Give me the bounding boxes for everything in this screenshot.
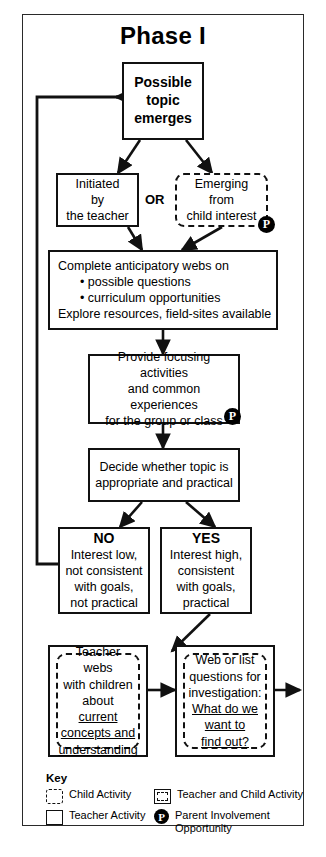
node-line: Explore resources, field-sites available bbox=[58, 306, 271, 322]
node-line: about bbox=[82, 693, 113, 709]
node-heading: YES bbox=[192, 530, 220, 548]
node-heading: NO bbox=[94, 530, 115, 548]
key-title: Key bbox=[46, 772, 304, 784]
node-line: child interest bbox=[186, 208, 256, 224]
node-line: from bbox=[209, 192, 234, 208]
node-line-underlined: current bbox=[79, 709, 118, 725]
node-line: practical bbox=[183, 595, 230, 611]
key-item-label: Teacher and Child Activity bbox=[177, 788, 303, 801]
key-item-parent-involvement: P Parent Involvement Opportunity bbox=[154, 809, 270, 835]
node-line: with children bbox=[63, 677, 132, 693]
key-legend: Key Child Activity Teacher and Child Act… bbox=[46, 772, 304, 840]
node-decide-whether-topic[interactable]: Decide whether topic is appropriate and … bbox=[88, 448, 240, 502]
node-provide-focusing-activities[interactable]: Provide focusing activities and common e… bbox=[88, 354, 240, 424]
node-line: by bbox=[91, 192, 104, 208]
key-row: Child Activity Teacher and Child Activit… bbox=[46, 788, 304, 804]
node-line: investigation: bbox=[189, 685, 262, 701]
node-web-or-list-questions[interactable]: Web or list questions for investigation:… bbox=[175, 645, 275, 757]
node-no-branch[interactable]: NO Interest low, not consistent with goa… bbox=[58, 527, 150, 614]
dashed-square-icon bbox=[46, 789, 63, 804]
node-line-underlined: concepts and bbox=[61, 725, 135, 741]
or-label: OR bbox=[145, 192, 165, 207]
node-line: not practical bbox=[70, 595, 137, 611]
solid-square-with-dashed-inner-icon bbox=[154, 789, 171, 804]
node-line: topic bbox=[146, 92, 179, 110]
parent-circle-p-icon: P bbox=[154, 809, 169, 824]
node-line: with goals, bbox=[74, 579, 133, 595]
node-line: Emerging bbox=[195, 176, 249, 192]
node-line: not consistent bbox=[65, 563, 142, 579]
node-line: Teacher webs bbox=[60, 644, 136, 677]
node-emerging-child-interest[interactable]: Emerging from child interest bbox=[175, 173, 268, 227]
key-item-label: Parent Involvement bbox=[175, 809, 270, 822]
node-line: • curriculum opportunities bbox=[58, 290, 221, 306]
node-line-underlined: want to bbox=[205, 717, 245, 733]
key-item-label: Teacher Activity bbox=[69, 809, 145, 822]
node-line: Possible bbox=[134, 74, 192, 92]
node-line-underlined: What do we bbox=[192, 701, 258, 717]
node-teacher-webs-with-children[interactable]: Teacher webs with children about current… bbox=[48, 645, 148, 757]
node-line: • possible questions bbox=[58, 274, 191, 290]
node-line: Web or list bbox=[196, 652, 255, 668]
node-line: Interest low, bbox=[71, 547, 138, 563]
node-yes-branch[interactable]: YES Interest high, consistent with goals… bbox=[160, 527, 252, 614]
node-line: questions for bbox=[189, 669, 261, 685]
key-item-teacher-and-child-activity: Teacher and Child Activity bbox=[154, 788, 303, 804]
node-line: Initiated bbox=[76, 176, 120, 192]
key-item-label: Opportunity bbox=[175, 822, 270, 835]
node-line: and common experiences bbox=[94, 381, 234, 413]
node-line: appropriate and practical bbox=[95, 475, 233, 491]
node-line: Decide whether topic is bbox=[99, 459, 228, 475]
key-row: Teacher Activity P Parent Involvement Op… bbox=[46, 809, 304, 835]
key-item-teacher-activity: Teacher Activity bbox=[46, 809, 154, 825]
node-line-underlined: understanding bbox=[58, 742, 137, 758]
node-initiated-by-teacher[interactable]: Initiated by the teacher bbox=[56, 173, 139, 227]
node-line-underlined: find out? bbox=[201, 734, 249, 750]
node-possible-topic[interactable]: Possible topic emerges bbox=[122, 62, 204, 140]
parent-involvement-badge[interactable]: P bbox=[258, 216, 275, 233]
node-line: Provide focusing activities bbox=[94, 349, 234, 381]
node-line: Interest high, bbox=[170, 547, 242, 563]
node-line: Complete anticipatory webs on bbox=[58, 258, 229, 274]
node-line: for the group or class bbox=[105, 413, 222, 429]
key-item-label-block: Parent Involvement Opportunity bbox=[175, 809, 270, 835]
node-line: emerges bbox=[134, 110, 192, 128]
key-item-label: Child Activity bbox=[69, 788, 131, 801]
parent-involvement-badge[interactable]: P bbox=[224, 408, 241, 425]
node-line: with goals, bbox=[176, 579, 235, 595]
key-item-child-activity: Child Activity bbox=[46, 788, 154, 804]
inner-child-activity-region: Web or list questions for investigation:… bbox=[183, 653, 267, 749]
node-line: consistent bbox=[178, 563, 234, 579]
solid-square-icon bbox=[46, 810, 63, 825]
inner-child-activity-region: Teacher webs with children about current… bbox=[56, 653, 140, 749]
node-complete-anticipatory-webs[interactable]: Complete anticipatory webs on • possible… bbox=[48, 250, 278, 330]
node-line: the teacher bbox=[66, 208, 129, 224]
page-title: Phase I bbox=[0, 22, 326, 50]
